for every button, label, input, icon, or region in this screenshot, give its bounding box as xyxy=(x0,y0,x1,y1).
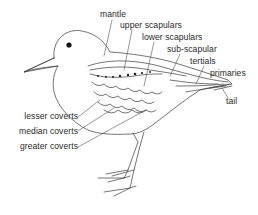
label-lesser-coverts: lesser coverts xyxy=(24,112,78,121)
label-median-coverts: median coverts xyxy=(19,127,78,136)
legs xyxy=(98,132,144,196)
label-tail: tail xyxy=(226,97,237,106)
label-upper-scapulars: upper scapulars xyxy=(120,21,182,30)
label-greater-coverts: greater coverts xyxy=(20,142,78,151)
label-mantle: mantle xyxy=(100,10,126,19)
bird-illustration xyxy=(0,0,258,215)
label-primaries: primaries xyxy=(210,69,246,78)
label-lower-scapulars: lower scapulars xyxy=(142,33,202,42)
bill xyxy=(24,58,58,72)
label-sub-scapular: sub-scapular xyxy=(167,45,217,54)
bird-anatomy-diagram: mantle upper scapulars lower scapulars s… xyxy=(0,0,258,215)
label-tertials: tertials xyxy=(190,57,216,66)
